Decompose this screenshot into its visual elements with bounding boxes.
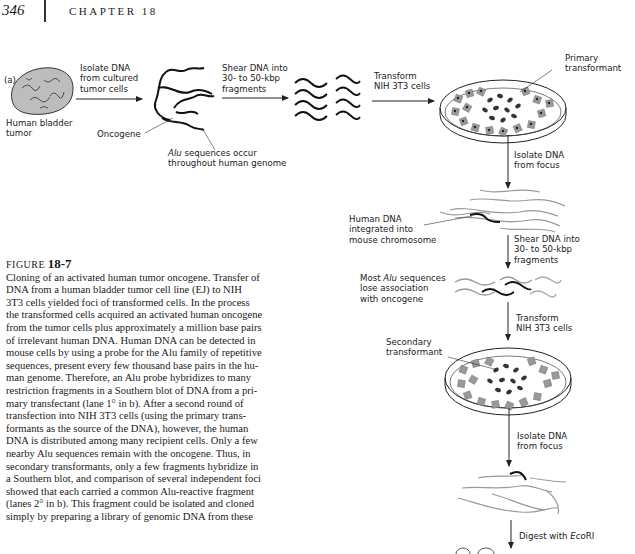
- caption-line: mouse cells by using a probe for the Alu…: [6, 347, 324, 360]
- focus-dna-icon: [458, 475, 566, 514]
- figure-word: FIGURE: [6, 259, 45, 270]
- step-digest-label: Digest with EcoRI: [519, 531, 594, 541]
- primary-transformant-label: Primary transformant: [565, 53, 621, 74]
- figure-number: 18-7: [48, 256, 72, 271]
- step-transform-label: Transform NIH 3T3 cells: [374, 71, 430, 92]
- caption-line: DNA is distributed among many recipient …: [6, 435, 324, 448]
- caption-line: DNA from a human bladder tumor cell line…: [6, 284, 324, 297]
- caption-line: sequences, present every few thousand ba…: [6, 360, 324, 373]
- secondary-transformant-label: Secondary transformant: [386, 337, 442, 358]
- step-transform-2-label: Transform NIH 3T3 cells: [516, 313, 572, 334]
- caption-line: simply by preparing a library of genomic…: [6, 511, 324, 524]
- panel-label: (a): [4, 75, 16, 85]
- tangled-dna-icon: [155, 68, 214, 130]
- caption-line: showed that each carried a common Alu-re…: [6, 486, 324, 499]
- step-isolate-dna-label: Isolate DNA from cultured tumor cells: [80, 63, 138, 94]
- tumor-label: Human bladder tumor: [6, 118, 73, 139]
- mouse-chromosome-icon: [440, 190, 565, 232]
- caption-line: a Southern blot, and comparison of sever…: [6, 473, 324, 486]
- caption-line: from the tumor cells plus approximately …: [6, 322, 324, 335]
- step-isolate-focus-label: Isolate DNA from focus: [514, 150, 564, 171]
- sheared-fragments-icon: [455, 277, 561, 297]
- step-shear-dna-2-label: Shear DNA into 30- to 50-kbp fragments: [514, 234, 580, 265]
- oncogene-label: Oncogene: [97, 129, 141, 139]
- secondary-petri-dish-icon: [445, 348, 571, 415]
- caption-line: formants as the source of the DNA), howe…: [6, 423, 324, 436]
- primary-petri-dish-icon: [440, 80, 566, 143]
- caption-line: Cloning of an activated human tumor onco…: [6, 272, 324, 285]
- caption-line: 3T3 cells yielded foci of transformed ce…: [6, 297, 324, 310]
- human-dna-integrated-label: Human DNA integrated into mouse chromoso…: [349, 214, 436, 245]
- caption-line: of irrelevant human DNA. Human DNA can b…: [6, 335, 324, 348]
- caption-line: nearby Alu sequences remain with the onc…: [6, 448, 324, 461]
- caption-line: mary transfectant (lane 1° in b). After …: [6, 398, 324, 411]
- caption-line: (lanes 2° in b). This fragment could be …: [6, 498, 324, 511]
- step-shear-dna-label: Shear DNA into 30- to 50-kbp fragments: [222, 63, 288, 94]
- alu-sequences-label: Alu sequences occur throughout human gen…: [168, 148, 286, 169]
- step-isolate-focus-2-label: Isolate DNA from focus: [517, 431, 567, 452]
- figure-caption: FIGURE 18-7 Cloning of an activated huma…: [6, 258, 324, 523]
- caption-line: secondary transformants, only a few frag…: [6, 461, 324, 474]
- bladder-tumor-icon: [12, 68, 73, 115]
- caption-line: restriction fragments in a Southern blot…: [6, 385, 324, 398]
- caption-line: the transformed cells acquired an activa…: [6, 309, 324, 322]
- caption-line: transfection into NIH 3T3 cells (using t…: [6, 410, 324, 423]
- dna-fragments-icon: [295, 76, 360, 121]
- most-alu-label: Most Alu sequences lose association with…: [360, 273, 446, 304]
- caption-line: man genome. Therefore, an Alu probe hybr…: [6, 372, 324, 385]
